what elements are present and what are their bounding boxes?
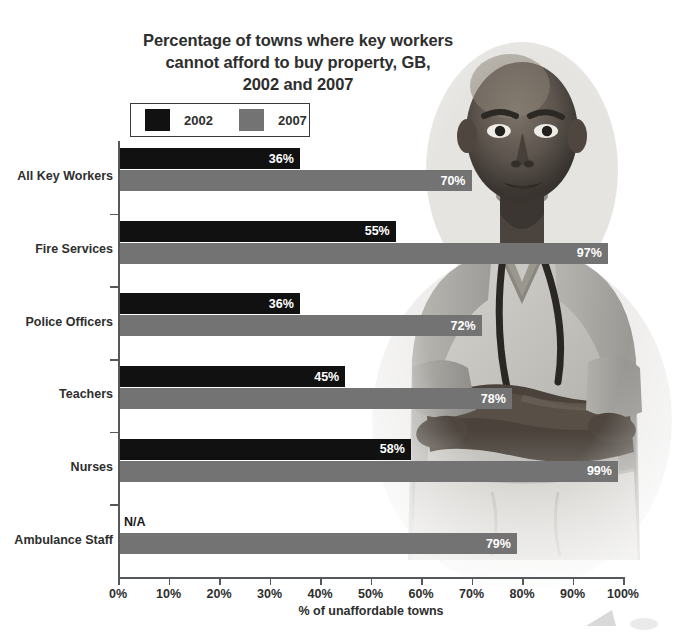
- bar-value-label: 36%: [269, 152, 300, 166]
- x-tick: [371, 577, 373, 585]
- category-label-teachers: Teachers: [1, 387, 113, 401]
- category-label-police-officers: Police Officers: [1, 315, 113, 329]
- x-tick: [421, 577, 423, 585]
- category-label-fire-services: Fire Services: [1, 242, 113, 256]
- bar-value-label: 36%: [269, 297, 300, 311]
- bar-2007[interactable]: 70%: [118, 170, 472, 191]
- x-tick: [169, 577, 171, 585]
- bar-value-label: 79%: [486, 537, 517, 551]
- bar-2002[interactable]: 55%: [118, 221, 396, 242]
- category-tick: [110, 432, 119, 434]
- x-tick: [573, 577, 575, 585]
- bar-value-na: N/A: [124, 511, 146, 532]
- legend-item-2007: 2007: [239, 109, 307, 131]
- legend-item-2002: 2002: [145, 109, 213, 131]
- chart-title: Percentage of towns where key workers ca…: [118, 30, 478, 95]
- category-tick: [110, 286, 119, 288]
- bar-value-label: 45%: [314, 370, 345, 384]
- category-label-all-key-workers: All Key Workers: [1, 169, 113, 183]
- bar-2007[interactable]: 99%: [118, 461, 618, 482]
- bar-value-label: 97%: [577, 246, 608, 260]
- x-tick: [219, 577, 221, 585]
- x-tick: [320, 577, 322, 585]
- bar-2007[interactable]: 79%: [118, 533, 517, 554]
- bar-2007[interactable]: 72%: [118, 315, 482, 336]
- bar-2002[interactable]: 36%: [118, 293, 300, 314]
- category-axis: All Key WorkersFire ServicesPolice Offic…: [0, 141, 113, 577]
- bar-2002[interactable]: 45%: [118, 366, 345, 387]
- chart-title-line3: 2002 and 2007: [118, 74, 478, 96]
- category-tick: [110, 359, 119, 361]
- category-label-ambulance-staff: Ambulance Staff: [1, 533, 113, 547]
- x-axis-title: % of unaffordable towns: [118, 604, 624, 618]
- plot-area: 36%70%55%97%36%72%45%78%58%99%N/A79%: [118, 141, 623, 577]
- x-tick: [270, 577, 272, 585]
- bar-2002[interactable]: 36%: [118, 148, 300, 169]
- bar-2007[interactable]: 78%: [118, 388, 512, 409]
- bar-value-label: 78%: [481, 392, 512, 406]
- x-tick: [472, 577, 474, 585]
- chart-title-line2: cannot afford to buy property, GB,: [118, 52, 478, 74]
- x-tick-label: 100%: [593, 587, 653, 601]
- bar-2002[interactable]: 58%: [118, 439, 411, 460]
- bar-value-label: 55%: [365, 224, 396, 238]
- bar-value-label: 70%: [440, 174, 471, 188]
- bar-2007[interactable]: 97%: [118, 243, 608, 264]
- bar-value-label: 99%: [587, 464, 618, 478]
- legend-label-2007: 2007: [278, 113, 307, 128]
- legend-swatch-2007: [239, 109, 264, 131]
- x-tick: [118, 577, 120, 585]
- legend-label-2002: 2002: [184, 113, 213, 128]
- category-label-nurses: Nurses: [1, 460, 113, 474]
- category-tick: [110, 504, 119, 506]
- bar-value-label: 58%: [380, 442, 411, 456]
- legend-swatch-2002: [145, 109, 170, 131]
- legend: 2002 2007: [130, 103, 310, 137]
- chart-container: Percentage of towns where key workers ca…: [0, 0, 684, 632]
- x-tick: [623, 577, 625, 585]
- x-tick: [522, 577, 524, 585]
- category-tick: [110, 214, 119, 216]
- bar-value-label: 72%: [451, 319, 482, 333]
- chart-title-line1: Percentage of towns where key workers: [118, 30, 478, 52]
